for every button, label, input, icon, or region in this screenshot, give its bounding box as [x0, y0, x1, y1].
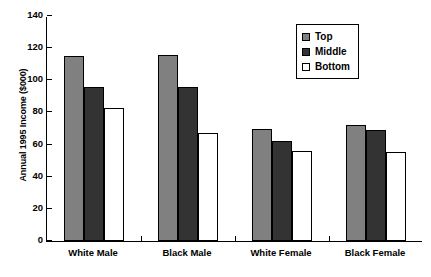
y-tick-label-120: 120 [27, 41, 43, 52]
y-tick-label-0: 0 [38, 234, 43, 245]
bar-black-male-middle [178, 87, 198, 241]
legend-label-middle: Middle [315, 46, 347, 57]
bar-white-male-middle [84, 87, 104, 241]
legend-swatch-bottom-icon [302, 63, 310, 71]
x-label-white-female: White Female [234, 247, 328, 258]
bar-white-male-top [64, 56, 84, 241]
y-tick-140: 140 [47, 15, 52, 16]
bar-black-female-bottom [386, 152, 406, 241]
x-label-white-male: White Male [46, 247, 140, 258]
bars-layer [47, 17, 422, 241]
legend-label-bottom: Bottom [315, 61, 350, 72]
bar-white-female-bottom [292, 151, 312, 241]
bar-chart: Annual 1995 Income ($000) 02040608010012… [0, 0, 431, 277]
legend-item-top: Top [302, 29, 350, 44]
legend-label-top: Top [315, 31, 333, 42]
bar-black-male-top [158, 55, 178, 241]
legend-swatch-top-icon [302, 33, 310, 41]
bar-white-male-bottom [104, 108, 124, 241]
legend-swatch-middle-icon [302, 48, 310, 56]
y-tick-label-100: 100 [27, 73, 43, 84]
x-label-black-female: Black Female [328, 247, 422, 258]
y-tick-label-80: 80 [32, 105, 43, 116]
plot-area: 020406080100120140 [46, 17, 422, 242]
y-tick-label-140: 140 [27, 9, 43, 20]
chart-legend: Top Middle Bottom [296, 24, 359, 79]
bar-black-male-bottom [198, 133, 218, 241]
y-tick-label-20: 20 [32, 202, 43, 213]
legend-item-bottom: Bottom [302, 59, 350, 74]
bar-black-female-middle [366, 130, 386, 241]
y-axis-title: Annual 1995 Income ($000) [18, 30, 28, 220]
bar-white-female-top [252, 129, 272, 242]
legend-item-middle: Middle [302, 44, 350, 59]
x-label-black-male: Black Male [140, 247, 234, 258]
bar-white-female-middle [272, 141, 292, 241]
y-tick-label-40: 40 [32, 170, 43, 181]
y-tick-label-60: 60 [32, 138, 43, 149]
bar-black-female-top [346, 125, 366, 241]
